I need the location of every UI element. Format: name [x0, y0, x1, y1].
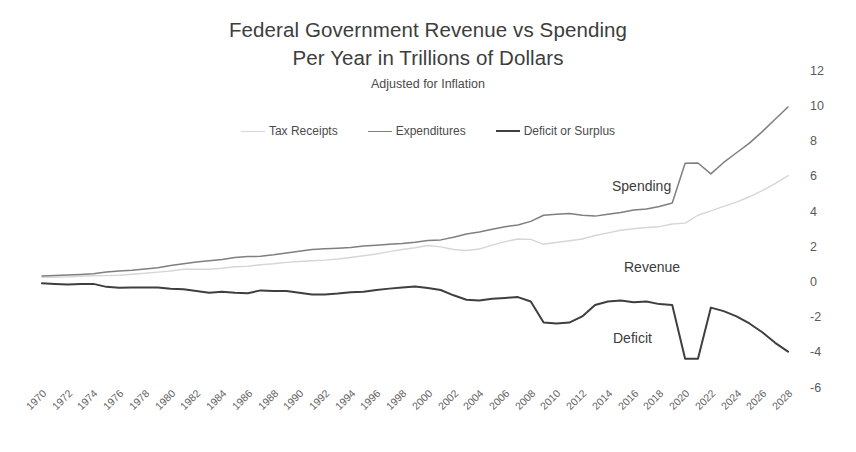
series-annotation-spending: Spending [612, 178, 671, 194]
y-axis-tick-neg2: -2 [810, 310, 850, 324]
series-line-expenditures [42, 107, 788, 276]
y-axis-tick-6: 6 [810, 169, 850, 183]
y-axis-tick-4: 4 [810, 205, 850, 219]
y-axis-tick-neg6: -6 [810, 381, 850, 395]
series-annotation-deficit: Deficit [613, 330, 652, 346]
plot-area [0, 0, 856, 452]
y-axis-tick-0: 0 [810, 275, 850, 289]
y-axis-tick-12: 12 [810, 64, 850, 78]
y-axis-tick-10: 10 [810, 99, 850, 113]
y-axis-tick-neg4: -4 [810, 345, 850, 359]
y-axis-tick-2: 2 [810, 240, 850, 254]
chart-container: Federal Government Revenue vs Spending P… [0, 0, 856, 452]
series-annotation-revenue: Revenue [624, 259, 680, 275]
y-axis-tick-8: 8 [810, 134, 850, 148]
series-line-deficit-or-surplus [42, 283, 788, 358]
